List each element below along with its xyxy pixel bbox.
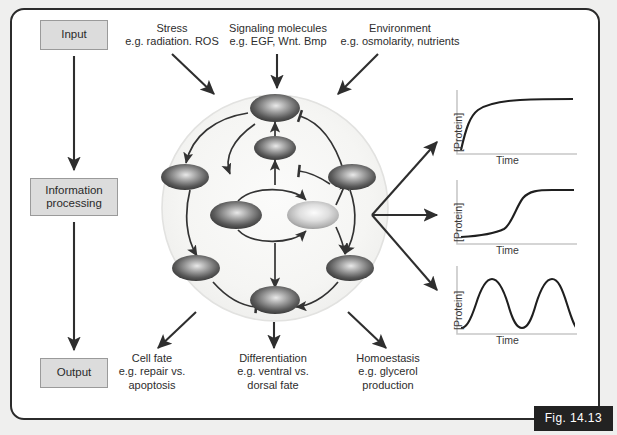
network-node-bottom-right (326, 255, 374, 281)
plot-curve-switch (461, 190, 574, 237)
figure-14-13: Input Information processing Output Stre… (0, 0, 617, 435)
plot-xlabel-oscillatory: Time (496, 334, 519, 346)
plot-saturating-response (457, 90, 577, 154)
plot-ylabel-switch: [Protein] (452, 203, 464, 242)
plot-ylabel-saturating: [Protein] (452, 113, 464, 152)
plot-xlabel-saturating: Time (496, 154, 519, 166)
network-node-top (250, 94, 300, 122)
plot-oscillatory-response (457, 266, 578, 334)
figure-number-badge: Fig. 14.13 (534, 406, 613, 431)
arrow-to-oscillatory-plot (372, 215, 437, 290)
network-node-right (328, 164, 376, 190)
arrow-environment-to-cell (338, 54, 378, 94)
arrow-cell-to-cell-fate (158, 312, 196, 348)
plot-curve-oscillatory (461, 279, 578, 329)
plot-xlabel-switch: Time (496, 244, 519, 256)
diagram-vector-layer (0, 0, 617, 435)
arrow-cell-to-homeostasis (348, 312, 386, 348)
network-node-center-right (287, 201, 339, 229)
network-node-upper-mid (254, 136, 296, 160)
arrow-stress-to-cell (172, 54, 214, 94)
network-node-center-left (210, 201, 262, 229)
response-fan-arrows (372, 142, 437, 290)
plot-curve-saturating (461, 99, 573, 150)
network-node-left (161, 164, 209, 190)
plot-switch-response (457, 180, 577, 244)
input-arrows (172, 54, 378, 94)
network-node-bottom (250, 286, 300, 314)
network-node-bottom-left (172, 255, 220, 281)
plot-ylabel-oscillatory: [Protein] (452, 291, 464, 330)
